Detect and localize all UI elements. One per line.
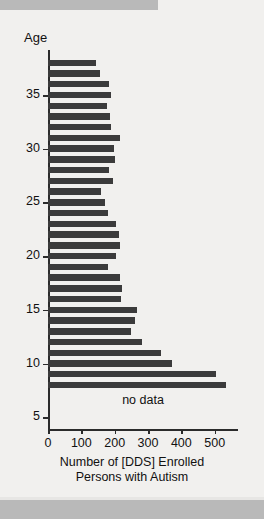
bar — [48, 231, 119, 237]
bar — [48, 382, 226, 388]
bar — [48, 135, 120, 141]
x-axis-title-line2: Persons with Autism — [76, 470, 189, 484]
y-tick-label: 20 — [0, 248, 40, 262]
bar — [48, 156, 115, 162]
bar — [48, 371, 216, 377]
x-tick-label: 400 — [171, 436, 192, 450]
x-tick-label: 500 — [204, 436, 225, 450]
y-axis-label: Age — [24, 30, 47, 45]
plot-area — [48, 52, 248, 428]
page-edge-band-bottom — [0, 500, 264, 519]
x-tick-label: 0 — [45, 436, 52, 450]
bar — [48, 103, 107, 109]
bar — [48, 92, 111, 98]
y-tick-label: 35 — [0, 87, 40, 101]
x-tick — [148, 429, 150, 434]
bar — [48, 221, 116, 227]
x-axis-title: Number of [DDS] Enrolled Persons with Au… — [0, 455, 264, 485]
x-tick — [81, 429, 83, 434]
page-edge-band-top — [0, 0, 158, 10]
chart-figure: Age 3530252015105 0100200300400500 no da… — [0, 0, 264, 519]
bar — [48, 296, 121, 302]
x-tick-label: 200 — [104, 436, 125, 450]
bar — [48, 60, 96, 66]
bar — [48, 167, 109, 173]
bar — [48, 253, 116, 259]
bar — [48, 124, 111, 130]
x-tick-label: 300 — [138, 436, 159, 450]
x-axis-title-line1: Number of [DDS] Enrolled — [60, 455, 205, 469]
y-tick-label: 30 — [0, 141, 40, 155]
bar — [48, 145, 114, 151]
bar — [48, 307, 137, 313]
x-tick — [48, 429, 50, 434]
x-tick — [181, 429, 183, 434]
y-tick-label: 5 — [0, 409, 40, 423]
y-tick-label: 10 — [0, 356, 40, 370]
bar — [48, 199, 105, 205]
bar — [48, 188, 101, 194]
bar — [48, 328, 131, 334]
x-tick — [215, 429, 217, 434]
bar — [48, 210, 108, 216]
x-axis-line — [48, 429, 238, 431]
bar — [48, 360, 172, 366]
bar — [48, 70, 100, 76]
bar — [48, 264, 108, 270]
y-tick-label: 25 — [0, 194, 40, 208]
bar — [48, 81, 109, 87]
x-tick-label: 100 — [71, 436, 92, 450]
bar — [48, 285, 122, 291]
bar — [48, 317, 135, 323]
bar — [48, 113, 110, 119]
bar — [48, 178, 113, 184]
bar — [48, 242, 120, 248]
bar — [48, 274, 120, 280]
bar — [48, 339, 142, 345]
bar — [48, 350, 161, 356]
y-tick-label: 15 — [0, 302, 40, 316]
no-data-annotation: no data — [48, 393, 238, 407]
x-tick — [115, 429, 117, 434]
